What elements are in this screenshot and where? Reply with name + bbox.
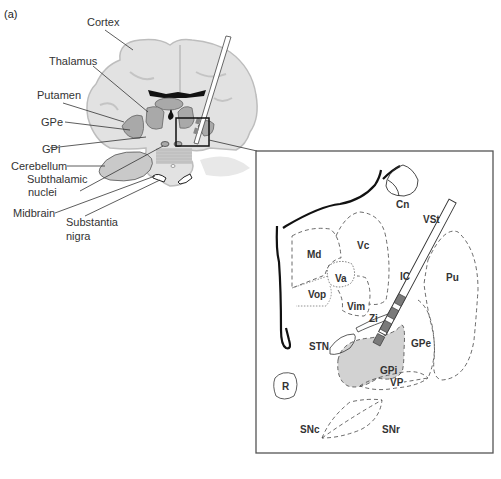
- label-midbrain: Midbrain: [13, 207, 55, 219]
- label-stn: STN: [309, 341, 329, 352]
- label-snc: SNc: [300, 424, 319, 435]
- label-cn: Cn: [396, 199, 409, 210]
- brain-section: [87, 36, 257, 186]
- label-subthalamic: Subthalamic: [27, 173, 88, 185]
- label-pu: Pu: [446, 272, 459, 283]
- label-gpi: GPi: [42, 143, 60, 155]
- label-vim: Vim: [347, 301, 365, 312]
- label-vp: VP: [390, 377, 403, 388]
- inset-frame: [256, 151, 493, 453]
- label-cortex: Cortex: [87, 16, 119, 28]
- label-snr: SNr: [382, 424, 400, 435]
- label-subthalamic-nuclei: nuclei: [28, 186, 57, 198]
- label-thalamus: Thalamus: [49, 55, 97, 67]
- label-va: Va: [335, 273, 347, 284]
- label-r: R: [282, 381, 289, 392]
- label-gpi-inset: GPi: [380, 365, 397, 376]
- label-putamen: Putamen: [37, 89, 81, 101]
- label-vst: VSt: [423, 214, 440, 225]
- label-md: Md: [307, 249, 321, 260]
- label-vc: Vc: [357, 240, 369, 251]
- label-substantia: Substantia: [66, 216, 118, 228]
- label-gpe: GPe: [41, 116, 63, 128]
- label-vop: Vop: [308, 289, 326, 300]
- label-substantia-nigra: nigra: [66, 230, 90, 242]
- label-zi: Zi: [369, 313, 378, 324]
- label-gpe-inset: GPe: [411, 338, 431, 349]
- label-cerebellum: Cerebellum: [11, 160, 67, 172]
- label-ic: IC: [400, 271, 410, 282]
